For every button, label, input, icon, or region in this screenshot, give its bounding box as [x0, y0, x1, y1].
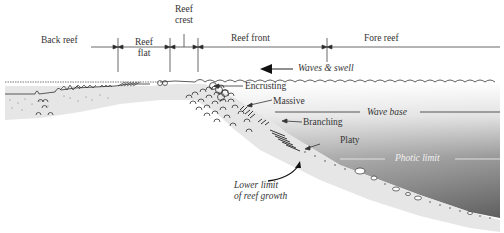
coral-label-branching: Branching	[303, 117, 343, 128]
waves-swell-label: Waves & swell	[298, 63, 354, 74]
waves-arrow	[260, 64, 293, 74]
zone-label-reef-flat: Reef flat	[127, 37, 161, 59]
photic-limit-label: Photic limit	[395, 153, 440, 164]
zone-label-back-reef: Back reef	[41, 35, 78, 46]
zone-label-reef-crest: Reef crest	[167, 4, 201, 26]
lower-limit-line2: of reef growth	[234, 191, 287, 202]
reef-flat-line2: flat	[127, 48, 161, 59]
zone-label-fore-reef: Fore reef	[364, 33, 399, 44]
reef-crest-line1: Reef	[167, 4, 201, 15]
lower-limit-label: Lower limit of reef growth	[234, 180, 287, 202]
coral-label-massive: Massive	[273, 96, 305, 107]
wave-base-label: Wave base	[367, 107, 407, 118]
coral-label-platy: Platy	[340, 135, 360, 146]
coral-label-encrusting: Encrusting	[245, 81, 286, 92]
reef-crest-line2: crest	[167, 15, 201, 26]
wave-surface	[195, 80, 495, 83]
reef-flat-line1: Reef	[127, 37, 161, 48]
reef-zonation-diagram: Back reef Reef flat Reef crest Reef fron…	[0, 0, 504, 233]
lower-limit-line1: Lower limit	[234, 180, 287, 191]
zone-label-reef-front: Reef front	[231, 33, 270, 44]
